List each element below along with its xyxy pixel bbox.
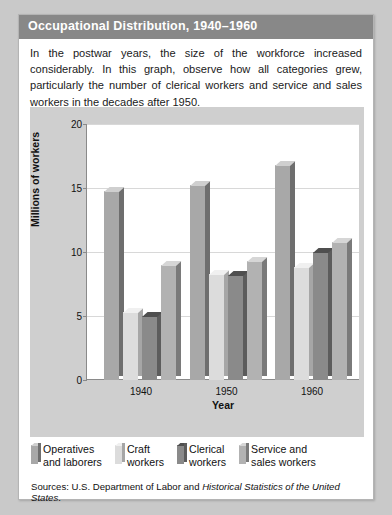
bar-face — [247, 261, 262, 380]
legend-swatch — [177, 445, 184, 464]
bar-face — [123, 312, 138, 380]
bar-operatives-1960 — [275, 165, 290, 380]
bar-face — [332, 242, 347, 380]
bar-clerical-1960 — [313, 252, 328, 380]
legend-item-clerical: Clerical workers — [177, 443, 226, 469]
y-axis-tick-label: 0 — [76, 375, 82, 386]
bar-group-1960: 1960 — [275, 124, 349, 380]
bar-clerical-1940 — [142, 316, 157, 380]
bar-side — [176, 261, 181, 376]
bar-face — [104, 191, 119, 380]
y-axis-tick-label: 15 — [71, 183, 82, 194]
bar-craft-1940 — [123, 312, 138, 380]
legend-item-service: Service and sales workers — [239, 443, 316, 469]
legend-label: Clerical workers — [189, 443, 226, 469]
bar-face — [275, 165, 290, 380]
intro-paragraph: In the postwar years, the size of the wo… — [30, 45, 362, 110]
legend-label: Craft workers — [127, 443, 164, 469]
figure-card: Occupational Distribution, 1940–1960 In … — [18, 14, 374, 500]
legend-item-operatives: Operatives and laborers — [31, 443, 102, 469]
chart-legend: Operatives and laborersCraft workersCler… — [31, 443, 365, 477]
legend-swatch — [239, 445, 246, 464]
x-axis-tick-label: 1950 — [215, 386, 237, 397]
bar-face — [294, 267, 309, 380]
bar-face — [228, 275, 243, 380]
legend-item-craft: Craft workers — [115, 443, 164, 469]
bar-face — [209, 274, 224, 380]
bar-service-1960 — [332, 242, 347, 380]
plot-area: 05101520194019501960Year — [87, 124, 359, 380]
y-axis-tick-label: 5 — [76, 311, 82, 322]
bar-side — [262, 257, 267, 376]
legend-label: Service and sales workers — [251, 443, 316, 469]
sources-prefix: Sources: U.S. Department of Labor and — [31, 481, 202, 492]
legend-swatch — [115, 445, 122, 464]
bar-face — [190, 185, 205, 380]
bar-craft-1960 — [294, 267, 309, 380]
y-axis-tick-mark — [83, 252, 87, 253]
bar-service-1940 — [161, 265, 176, 380]
bar-clerical-1950 — [228, 275, 243, 380]
y-axis-tick-mark — [83, 380, 87, 381]
legend-label: Operatives and laborers — [43, 443, 102, 469]
legend-swatch-side — [122, 443, 125, 462]
bar-operatives-1950 — [190, 185, 205, 380]
bar-side — [347, 238, 352, 376]
bar-face — [313, 252, 328, 380]
sources-suffix: . — [58, 492, 61, 503]
bar-group-1940: 1940 — [104, 124, 178, 380]
bar-service-1950 — [247, 261, 262, 380]
y-axis-tick-label: 20 — [71, 119, 82, 130]
y-axis-tick-mark — [83, 124, 87, 125]
y-axis-tick-label: 10 — [71, 247, 82, 258]
y-axis-tick-mark — [83, 188, 87, 189]
x-axis-tick-label: 1940 — [130, 386, 152, 397]
legend-swatch-side — [184, 443, 187, 462]
title-bar: Occupational Distribution, 1940–1960 — [19, 15, 373, 39]
legend-swatch-side — [246, 443, 249, 462]
bar-face — [161, 265, 176, 380]
chart-container: Millions of workers 05101520194019501960… — [30, 107, 364, 437]
bar-group-1950: 1950 — [190, 124, 264, 380]
page-title: Occupational Distribution, 1940–1960 — [28, 19, 258, 33]
bar-craft-1950 — [209, 274, 224, 380]
bar-face — [142, 316, 157, 380]
x-axis-label: Year — [212, 399, 234, 411]
bar-operatives-1940 — [104, 191, 119, 380]
legend-swatch — [31, 445, 38, 464]
sources-note: Sources: U.S. Department of Labor and Hi… — [31, 481, 365, 503]
y-axis-tick-mark — [83, 316, 87, 317]
legend-swatch-side — [38, 443, 41, 462]
x-axis-tick-label: 1960 — [301, 386, 323, 397]
y-axis-label: Millions of workers — [29, 132, 41, 227]
